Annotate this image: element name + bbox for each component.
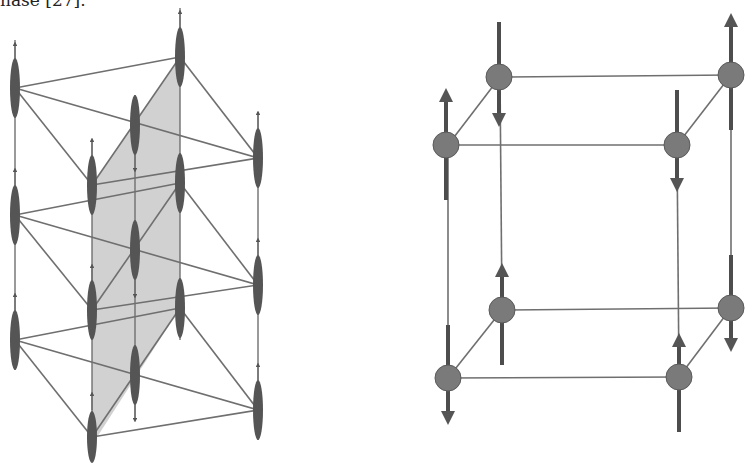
cube-edges: [448, 75, 731, 378]
atom-back-top-left: [486, 64, 512, 90]
right-unit-cell-figure: [433, 20, 744, 432]
atom-back-bottom-right: [718, 295, 744, 321]
atom-front-bottom-right: [666, 364, 692, 390]
atom-back-bottom-left: [489, 297, 515, 323]
atom-back-top-right: [718, 62, 744, 88]
spin-column-a: [10, 44, 20, 370]
figure-canvas: [0, 0, 746, 463]
atom-front-top-right: [664, 132, 690, 158]
spin-column-e: [253, 113, 263, 440]
atom-front-top-left: [433, 132, 459, 158]
left-lattice-figure: [10, 8, 263, 463]
atoms: [433, 62, 744, 391]
atom-front-bottom-left: [435, 365, 461, 391]
spin-column-d: [175, 12, 185, 338]
spin-column-c: [130, 95, 140, 420]
